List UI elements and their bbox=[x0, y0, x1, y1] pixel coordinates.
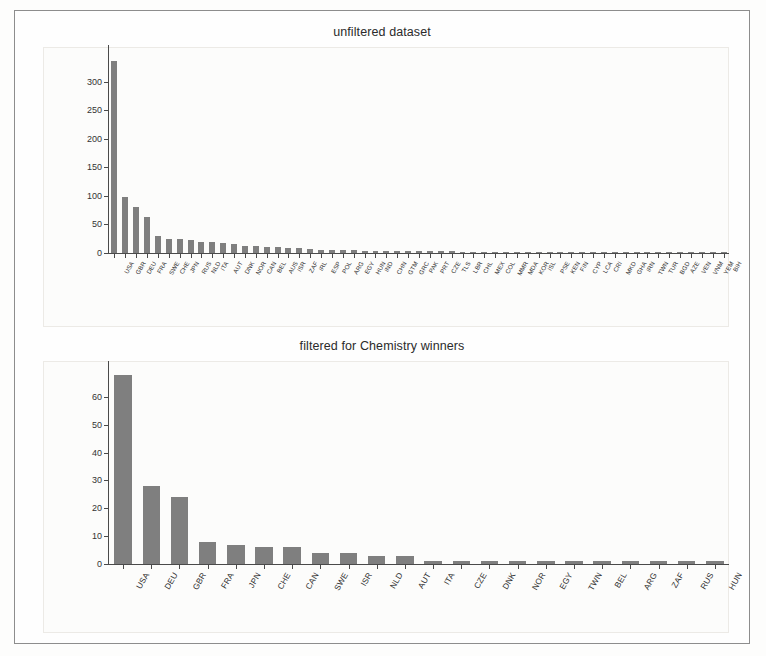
bar bbox=[255, 547, 272, 564]
plot-area-chemistry: 0102030405060USADEUGBRFRAJPNCHECANSWEISR… bbox=[109, 369, 729, 564]
x-axis-tick bbox=[463, 253, 464, 258]
y-axis-tick bbox=[104, 425, 109, 426]
x-axis-tick bbox=[147, 253, 148, 258]
x-axis-tick bbox=[151, 564, 152, 569]
bar bbox=[188, 240, 194, 253]
figure-frame: unfiltered dataset 050100150200250300USA… bbox=[14, 10, 750, 644]
x-axis-tick bbox=[484, 253, 485, 258]
x-axis-tick bbox=[517, 253, 518, 258]
x-axis-tick bbox=[550, 253, 551, 258]
bar bbox=[111, 61, 117, 253]
x-axis-tick bbox=[571, 253, 572, 258]
y-axis-tick-label: 200 bbox=[87, 134, 102, 144]
y-axis-tick-label: 50 bbox=[92, 219, 102, 229]
x-axis-tick bbox=[430, 253, 431, 258]
x-axis-tick bbox=[405, 564, 406, 569]
x-axis-tick bbox=[408, 253, 409, 258]
x-axis-tick bbox=[461, 564, 462, 569]
x-axis-tick bbox=[713, 253, 714, 258]
y-axis-tick-label: 0 bbox=[97, 248, 102, 258]
x-axis-tick bbox=[191, 253, 192, 258]
x-axis-tick bbox=[659, 564, 660, 569]
y-axis-tick bbox=[104, 564, 109, 565]
bar bbox=[396, 556, 413, 564]
bar bbox=[253, 246, 259, 253]
y-axis-tick-label: 100 bbox=[87, 191, 102, 201]
x-axis-tick bbox=[539, 253, 540, 258]
y-axis-tick-label: 60 bbox=[92, 392, 102, 402]
y-axis-tick bbox=[104, 453, 109, 454]
x-axis-tick bbox=[630, 564, 631, 569]
x-axis-tick bbox=[546, 564, 547, 569]
chart-title-chemistry: filtered for Chemistry winners bbox=[21, 339, 743, 353]
x-axis-tick bbox=[123, 564, 124, 569]
x-axis-tick bbox=[278, 253, 279, 258]
bar bbox=[114, 375, 131, 564]
bar bbox=[368, 556, 385, 564]
x-axis-tick bbox=[489, 564, 490, 569]
x-axis-tick bbox=[223, 253, 224, 258]
x-axis-tick bbox=[602, 564, 603, 569]
bar bbox=[312, 553, 329, 564]
x-axis-tick bbox=[375, 253, 376, 258]
x-axis-tick bbox=[560, 253, 561, 258]
x-axis-tick bbox=[332, 253, 333, 258]
x-axis-tick bbox=[299, 253, 300, 258]
bar bbox=[227, 545, 244, 565]
x-axis-tick bbox=[180, 253, 181, 258]
x-axis-tick bbox=[256, 253, 257, 258]
x-axis-tick bbox=[647, 253, 648, 258]
x-axis-tick bbox=[452, 253, 453, 258]
y-axis-tick bbox=[104, 508, 109, 509]
x-axis-tick bbox=[114, 253, 115, 258]
x-axis-tick bbox=[158, 253, 159, 258]
x-axis-tick bbox=[343, 253, 344, 258]
bar bbox=[220, 243, 226, 253]
x-axis-tick bbox=[125, 253, 126, 258]
bar bbox=[340, 553, 357, 564]
x-axis-tick bbox=[518, 564, 519, 569]
bar bbox=[177, 239, 183, 253]
y-axis-tick-label: 150 bbox=[87, 162, 102, 172]
y-axis-tick bbox=[104, 167, 109, 168]
x-axis-tick bbox=[208, 564, 209, 569]
x-axis-tick bbox=[724, 253, 725, 258]
y-axis-tick-label: 10 bbox=[92, 531, 102, 541]
y-axis-tick-label: 30 bbox=[92, 475, 102, 485]
bar bbox=[143, 486, 160, 564]
x-axis-line-bottom bbox=[108, 564, 729, 565]
x-axis-tick bbox=[433, 564, 434, 569]
y-axis-tick bbox=[104, 224, 109, 225]
x-axis-tick bbox=[321, 253, 322, 258]
y-axis-tick bbox=[104, 480, 109, 481]
y-axis-line-top bbox=[108, 45, 109, 254]
x-axis-tick bbox=[687, 564, 688, 569]
x-axis-tick bbox=[419, 253, 420, 258]
bar bbox=[283, 547, 300, 564]
bar bbox=[166, 239, 172, 253]
bar bbox=[144, 217, 150, 253]
x-axis-tick bbox=[320, 564, 321, 569]
x-axis-tick bbox=[292, 564, 293, 569]
bar bbox=[122, 197, 128, 253]
x-axis-tick bbox=[626, 253, 627, 258]
x-axis-tick bbox=[354, 253, 355, 258]
x-axis-tick bbox=[593, 253, 594, 258]
bar bbox=[171, 497, 188, 564]
bar bbox=[155, 236, 161, 253]
x-axis-tick bbox=[495, 253, 496, 258]
plot-area-unfiltered: 050100150200250300USAGBRDEUFRASWECHEJPNR… bbox=[109, 53, 729, 253]
y-axis-tick-label: 0 bbox=[97, 559, 102, 569]
x-axis-tick bbox=[201, 253, 202, 258]
x-axis-tick bbox=[236, 564, 237, 569]
x-axis-tick bbox=[615, 253, 616, 258]
x-axis-tick bbox=[637, 253, 638, 258]
y-axis-tick bbox=[104, 536, 109, 537]
x-axis-tick bbox=[473, 253, 474, 258]
y-axis-tick-label: 50 bbox=[92, 420, 102, 430]
x-axis-tick bbox=[715, 564, 716, 569]
x-axis-tick bbox=[506, 253, 507, 258]
x-axis-tick bbox=[582, 253, 583, 258]
x-axis-tick bbox=[267, 253, 268, 258]
x-axis-tick bbox=[288, 253, 289, 258]
